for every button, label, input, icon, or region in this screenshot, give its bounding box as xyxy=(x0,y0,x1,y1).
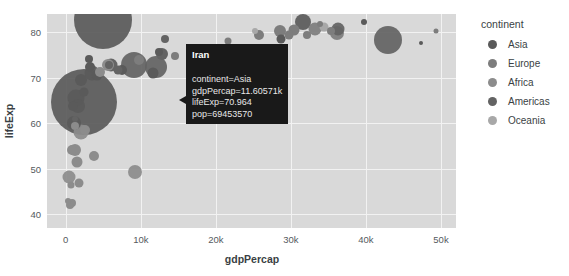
data-point-bubble[interactable] xyxy=(161,35,169,43)
x-tick-label: 0 xyxy=(63,234,68,245)
data-point-bubble[interactable] xyxy=(434,29,439,34)
legend-item-oceania[interactable]: Oceania xyxy=(481,112,550,128)
data-point-bubble[interactable] xyxy=(374,26,402,54)
data-point-bubble[interactable] xyxy=(75,74,87,86)
data-point-bubble[interactable] xyxy=(95,67,105,77)
legend-title: continent xyxy=(481,18,550,30)
gridline-vertical xyxy=(366,14,367,228)
y-tick-label: 70 xyxy=(18,72,41,83)
data-point-bubble[interactable] xyxy=(68,101,78,111)
x-tick-label: 20k xyxy=(208,234,223,245)
y-tick-label: 40 xyxy=(18,209,41,220)
legend-items[interactable]: AsiaEuropeAfricaAmericasOceania xyxy=(481,36,550,128)
data-point-bubble[interactable] xyxy=(85,55,93,63)
data-point-bubble[interactable] xyxy=(80,88,89,97)
x-tick-label: 50k xyxy=(433,234,448,245)
gridline-horizontal xyxy=(47,169,456,170)
x-tick-label: 40k xyxy=(358,234,373,245)
data-point-bubble[interactable] xyxy=(317,21,323,27)
gridline-vertical xyxy=(141,14,142,228)
data-point-bubble[interactable] xyxy=(327,27,335,35)
gridline-vertical xyxy=(291,14,292,228)
data-point-bubble[interactable] xyxy=(285,31,294,40)
data-point-bubble[interactable] xyxy=(147,68,158,79)
data-point-bubble[interactable] xyxy=(252,28,258,34)
tooltip-row-gdppercap: gdpPercap=11.60571k xyxy=(192,86,288,98)
data-point-bubble[interactable] xyxy=(80,125,90,135)
y-tick-label: 80 xyxy=(18,27,41,38)
tooltip-title: Iran xyxy=(192,49,288,61)
data-point-bubble[interactable] xyxy=(361,19,367,25)
data-point-bubble[interactable] xyxy=(75,178,84,187)
gridline-horizontal xyxy=(47,214,456,215)
bubble-chart-figure: 4050607080 010k20k30k40k50k gdpPercap li… xyxy=(0,0,569,276)
legend-item-label: Africa xyxy=(508,77,534,88)
y-axis-title: lifeExp xyxy=(3,104,15,138)
legend-marker-icon xyxy=(488,116,497,125)
x-axis-title: gdpPercap xyxy=(225,253,279,265)
legend-item-label: Oceania xyxy=(508,115,545,126)
data-point-bubble[interactable] xyxy=(114,65,123,74)
y-tick-label: 60 xyxy=(18,118,41,129)
data-point-bubble[interactable] xyxy=(71,122,79,130)
data-point-bubble[interactable] xyxy=(128,165,142,179)
data-point-bubble[interactable] xyxy=(171,52,179,60)
legend-marker-icon xyxy=(488,59,497,68)
legend-item-label: Europe xyxy=(508,58,540,69)
legend-item-asia[interactable]: Asia xyxy=(481,36,550,52)
data-point-bubble[interactable] xyxy=(68,182,75,189)
legend-marker-icon xyxy=(488,97,497,106)
data-point-bubble[interactable] xyxy=(67,145,77,155)
data-point-bubble[interactable] xyxy=(105,61,113,69)
tooltip-pointer-icon xyxy=(179,96,186,104)
x-tick-label: 10k xyxy=(133,234,148,245)
legend-item-africa[interactable]: Africa xyxy=(481,74,550,90)
legend-item-label: Americas xyxy=(508,96,550,107)
data-point-bubble[interactable] xyxy=(72,156,83,167)
tooltip-row-lifeexp: lifeExp=70.964 xyxy=(192,97,288,109)
legend-marker-icon xyxy=(488,78,497,87)
data-point-bubble[interactable] xyxy=(74,14,132,49)
tooltip-row-continent: continent=Asia xyxy=(192,74,288,86)
data-point-bubble[interactable] xyxy=(419,41,423,45)
data-point-bubble[interactable] xyxy=(65,198,71,204)
data-point-bubble[interactable] xyxy=(85,62,95,72)
legend-item-europe[interactable]: Europe xyxy=(481,55,550,71)
hover-tooltip: Iran continent=Asia gdpPercap=11.60571k … xyxy=(186,44,288,124)
legend: continent AsiaEuropeAfricaAmericasOceani… xyxy=(481,18,550,131)
data-point-bubble[interactable] xyxy=(303,31,311,39)
gridline-vertical xyxy=(441,14,442,228)
data-point-bubble[interactable] xyxy=(134,55,144,65)
x-tick-label: 30k xyxy=(283,234,298,245)
data-point-bubble[interactable] xyxy=(155,48,163,56)
legend-item-americas[interactable]: Americas xyxy=(481,93,550,109)
data-point-bubble[interactable] xyxy=(72,116,78,122)
data-point-bubble[interactable] xyxy=(89,151,99,161)
tooltip-row-pop: pop=69453570 xyxy=(192,109,288,121)
legend-marker-icon xyxy=(488,40,497,49)
y-tick-label: 50 xyxy=(18,163,41,174)
legend-item-label: Asia xyxy=(508,39,527,50)
